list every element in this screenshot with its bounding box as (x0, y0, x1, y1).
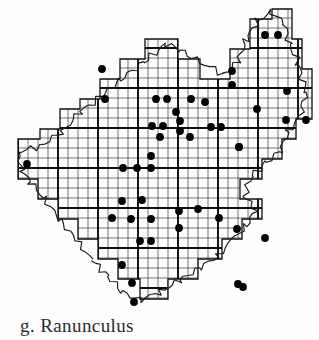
occurrence-dot (261, 234, 269, 242)
occurrence-dot (172, 108, 180, 116)
occurrence-dot (108, 214, 116, 222)
distribution-map (0, 0, 319, 310)
occurrence-dot (101, 95, 109, 103)
occurrence-dot (235, 143, 243, 151)
occurrence-dot (201, 98, 209, 106)
occurrence-dot (228, 81, 236, 89)
occurrence-dot (118, 261, 126, 269)
occurrence-dot (147, 164, 155, 172)
occurrence-dot (228, 67, 236, 75)
occurrence-dot (138, 196, 146, 204)
occurrence-dot (239, 283, 247, 291)
occurrence-dot (176, 127, 184, 135)
occurrence-dot (148, 122, 156, 130)
occurrence-dot (147, 152, 155, 160)
occurrence-dot (282, 116, 290, 124)
occurrence-dot (159, 122, 167, 130)
occurrence-dot (23, 160, 31, 168)
occurrence-dot (118, 197, 126, 205)
occurrence-dot (152, 95, 160, 103)
occurrence-dot (133, 164, 141, 172)
map-canvas (0, 0, 319, 310)
occurrence-dot (215, 214, 223, 222)
occurrence-dot (253, 105, 261, 113)
occurrence-dot (302, 116, 310, 124)
figure-caption: g. Ranunculus (20, 314, 300, 338)
occurrence-dot (217, 123, 225, 131)
occurrence-dot (261, 31, 269, 39)
occurrence-dot (136, 237, 144, 245)
occurrence-dot (283, 87, 291, 95)
occurrence-dot (119, 164, 127, 172)
occurrence-dot (147, 215, 155, 223)
occurrence-dot (156, 133, 164, 141)
occurrence-dot (128, 279, 136, 287)
occurrence-dot (176, 117, 184, 125)
occurrence-dot (175, 207, 183, 215)
occurrence-dot (127, 215, 135, 223)
occurrence-dot (130, 298, 138, 306)
occurrence-dot (233, 225, 241, 233)
occurrence-dot (186, 133, 194, 141)
occurrence-dot (207, 123, 215, 131)
occurrence-dot (187, 95, 195, 103)
occurrence-dot (274, 31, 282, 39)
occurrence-dot (147, 237, 155, 245)
figure-page: g. Ranunculus (0, 0, 319, 340)
occurrence-dot (98, 65, 106, 73)
occurrence-dot (163, 95, 171, 103)
occurrence-dot (194, 205, 202, 213)
occurrence-dot (175, 224, 183, 232)
